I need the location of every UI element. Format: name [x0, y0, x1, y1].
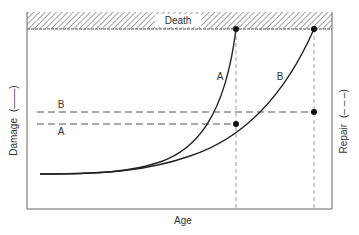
- left-axis-legend: (——): [8, 85, 19, 112]
- damage-curve-b: [40, 29, 314, 174]
- death-point-a: [233, 26, 239, 32]
- repair-point-a: [233, 121, 239, 127]
- repair-label-a: A: [58, 126, 65, 137]
- curve-label-b: B: [277, 71, 284, 82]
- left-axis-title: Damage (——): [8, 85, 19, 155]
- death-label: Death: [165, 15, 192, 26]
- repair-point-b: [311, 109, 317, 115]
- damage-repair-diagram: Death B A A B Age Damage (——) Repair (– …: [0, 0, 359, 235]
- repair-label-b: B: [58, 99, 65, 110]
- curve-label-a: A: [217, 71, 224, 82]
- right-axis-title: Repair (– – –): [338, 89, 349, 153]
- death-band: Death: [27, 12, 332, 29]
- death-point-b: [311, 26, 317, 32]
- right-axis-label: Repair: [338, 123, 349, 153]
- left-axis-label: Damage: [8, 118, 19, 156]
- plot-frame: [27, 12, 332, 209]
- right-axis-legend: (– – –): [338, 89, 349, 118]
- x-axis-label: Age: [174, 215, 192, 226]
- damage-curve-a: [40, 29, 236, 174]
